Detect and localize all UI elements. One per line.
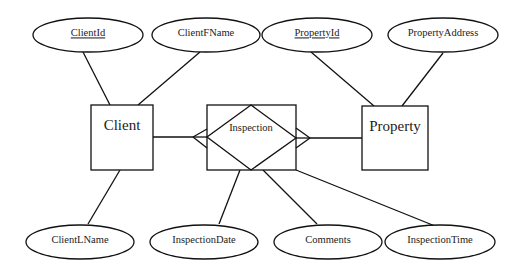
associative-entity-inspection[interactable]: Inspection bbox=[207, 105, 296, 170]
inspection-label: Inspection bbox=[229, 122, 273, 133]
attribute-propertyaddress[interactable]: PropertyAddress bbox=[388, 18, 498, 52]
entity-property-label: Property bbox=[369, 118, 421, 134]
attribute-comments-label: Comments bbox=[305, 234, 351, 245]
crows-foot-left bbox=[193, 129, 207, 148]
attribute-clientid-label: ClientId bbox=[71, 27, 106, 38]
er-diagram-canvas: Client Property Inspection ClientId Clie… bbox=[0, 0, 523, 273]
attribute-inspectiontime-label: InspectionTime bbox=[407, 234, 473, 245]
entity-client[interactable]: Client bbox=[91, 105, 153, 170]
attribute-inspectiondate[interactable]: InspectionDate bbox=[150, 225, 258, 259]
line-inspection-inspectiontime bbox=[296, 170, 435, 226]
attribute-clientfname-label: ClientFName bbox=[178, 27, 235, 38]
attribute-comments[interactable]: Comments bbox=[274, 225, 382, 259]
entity-client-label: Client bbox=[104, 117, 141, 133]
line-client-clientlname bbox=[88, 170, 120, 224]
line-inspection-inspectiondate bbox=[219, 170, 240, 224]
attribute-propertyid-label: PropertyId bbox=[295, 27, 341, 38]
entity-property-box bbox=[362, 106, 428, 170]
attribute-clientid[interactable]: ClientId bbox=[33, 18, 143, 52]
line-propertyaddress-property bbox=[402, 53, 443, 106]
line-clientid-client bbox=[83, 52, 110, 105]
line-propertyid-property bbox=[311, 52, 374, 106]
entity-property[interactable]: Property bbox=[362, 106, 428, 170]
line-inspection-comments bbox=[263, 170, 317, 224]
attribute-inspectiontime[interactable]: InspectionTime bbox=[385, 225, 495, 259]
attribute-clientfname[interactable]: ClientFName bbox=[152, 18, 260, 52]
attribute-clientlname-label: ClientLName bbox=[51, 234, 108, 245]
attribute-inspectiondate-label: InspectionDate bbox=[172, 234, 236, 245]
attribute-propertyid[interactable]: PropertyId bbox=[262, 18, 372, 52]
entity-client-box bbox=[91, 105, 153, 170]
crows-foot-right bbox=[296, 128, 310, 148]
attribute-propertyaddress-label: PropertyAddress bbox=[408, 27, 479, 38]
attribute-clientlname[interactable]: ClientLName bbox=[26, 225, 134, 259]
line-clientfname-client bbox=[138, 52, 200, 105]
